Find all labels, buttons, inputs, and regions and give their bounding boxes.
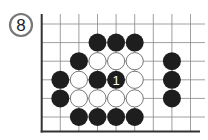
black-stone	[163, 89, 181, 107]
white-stone	[70, 90, 87, 107]
white-stone	[108, 90, 125, 107]
black-stone	[163, 71, 181, 89]
black-stone	[70, 52, 88, 70]
white-stone	[126, 90, 143, 107]
problem-number-badge: 8	[10, 14, 32, 36]
black-stone	[70, 108, 88, 126]
white-stone	[108, 53, 125, 70]
black-stone: 1	[107, 71, 125, 89]
white-stone	[89, 90, 106, 107]
move-number: 1	[112, 73, 119, 88]
black-stone	[51, 71, 69, 89]
go-diagram: 8 1	[0, 0, 208, 140]
white-stone	[126, 53, 143, 70]
black-stone	[107, 108, 125, 126]
black-stone	[107, 34, 125, 52]
black-stone	[89, 108, 107, 126]
black-stone	[89, 71, 107, 89]
white-stone	[89, 53, 106, 70]
black-stone	[126, 34, 144, 52]
black-stone	[126, 108, 144, 126]
white-stone	[126, 71, 143, 88]
black-stone	[89, 34, 107, 52]
black-stone	[163, 52, 181, 70]
white-stone	[70, 71, 87, 88]
black-stone	[51, 89, 69, 107]
problem-number: 8	[16, 16, 25, 35]
